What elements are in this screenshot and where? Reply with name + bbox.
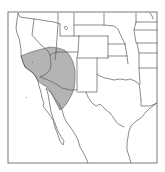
range-map xyxy=(0,0,165,172)
shaded-range xyxy=(21,47,75,110)
map-canvas xyxy=(0,0,165,172)
coastlines xyxy=(16,13,157,163)
great-salt-lake xyxy=(64,26,68,30)
